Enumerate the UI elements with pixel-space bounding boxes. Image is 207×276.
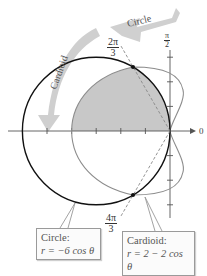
vertical-axis-label-den: 2: [164, 41, 170, 49]
cardioid-callout-title: Cardioid:: [127, 234, 190, 247]
polar-axis-arrowhead: [190, 128, 196, 134]
vertical-axis-label: π 2: [164, 32, 170, 49]
cardioid-callout-leader: [145, 197, 162, 231]
polar-axis-label: 0: [199, 126, 204, 136]
intersection-point-lower: [131, 193, 135, 197]
cardioid-callout-equation: r = 2 − 2 cos θ: [127, 247, 190, 273]
intersection-point-upper: [131, 65, 135, 69]
circle-callout-equation: r = −6 cos θ: [41, 244, 96, 257]
circle-callout-leader: [60, 203, 75, 228]
angle-label-4pi-3: 4π 3: [105, 213, 117, 234]
angle-label-2pi-3: 2π 3: [107, 37, 119, 58]
cardioid-callout: Cardioid: r = 2 − 2 cos θ: [122, 231, 195, 276]
circle-callout: Circle: r = −6 cos θ: [36, 228, 101, 260]
shaded-area: [72, 67, 170, 131]
angle-label-2pi-3-den: 3: [107, 48, 119, 58]
ray-4pi-3: [121, 131, 170, 216]
circle-callout-title: Circle:: [41, 231, 96, 244]
angle-label-4pi-3-den: 3: [105, 224, 117, 234]
